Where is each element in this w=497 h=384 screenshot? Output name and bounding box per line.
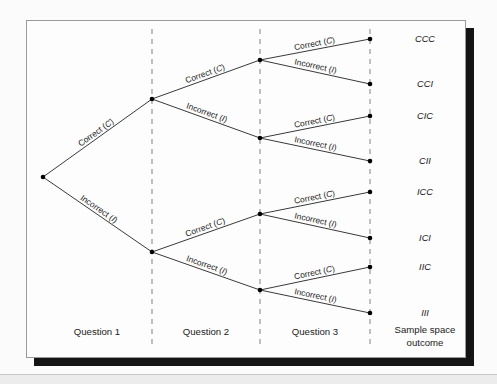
tree-edge-I-to-IC — [152, 214, 260, 252]
outcome-label-CII: CII — [419, 156, 431, 166]
edge-label-C-to-CI: Incorrect (I) — [185, 101, 229, 125]
tree-node-CI — [258, 136, 263, 141]
edge-label-I-to-II: Incorrect (I) — [185, 253, 229, 277]
tree-node-III — [368, 311, 373, 316]
edge-label-root-to-C: Correct (C) — [76, 116, 116, 148]
tree-node-ICC — [368, 190, 373, 195]
tree-node-root — [41, 175, 46, 180]
column-label-outcome-line2: outcome — [407, 337, 444, 348]
page-backdrop-lower — [0, 375, 497, 384]
figure-card: Correct (C)Incorrect (I)Correct (C)Incor… — [26, 20, 466, 358]
tree-edge-C-to-CC — [152, 60, 260, 99]
column-label-q3: Question 3 — [292, 326, 338, 337]
outcome-label-ICI: ICI — [419, 233, 431, 243]
tree-node-II — [258, 288, 263, 293]
edge-label-C-to-CC: Correct (C) — [184, 62, 227, 86]
tree-edge-C-to-CI — [152, 99, 260, 138]
tree-edge-I-to-II — [152, 252, 260, 290]
tree-node-IC — [258, 212, 263, 217]
tree-node-ICI — [368, 236, 373, 241]
outcome-label-ICC: ICC — [417, 187, 433, 197]
tree-node-CII — [368, 159, 373, 164]
outcome-label-CIC: CIC — [417, 111, 433, 121]
tree-edge-root-to-I — [43, 177, 152, 252]
column-label-outcome-line1: Sample space — [395, 324, 456, 335]
outcome-label-III: III — [421, 308, 429, 318]
outcome-label-CCI: CCI — [417, 79, 433, 89]
tree-edge-root-to-C — [43, 99, 152, 177]
column-label-q1: Question 1 — [74, 326, 120, 337]
edge-label-root-to-I: Incorrect (I) — [79, 193, 120, 226]
tree-node-C — [150, 97, 155, 102]
tree-node-CIC — [368, 114, 373, 119]
tree-node-I — [150, 250, 155, 255]
column-label-q2: Question 2 — [183, 326, 229, 337]
column-labels: Question 1Question 2Question 3Sample spa… — [74, 324, 456, 348]
outcome-label-CCC: CCC — [415, 34, 435, 44]
tree-edge-labels: Correct (C)Incorrect (I)Correct (C)Incor… — [76, 35, 338, 305]
tree-node-IIC — [368, 265, 373, 270]
probability-tree-diagram: Correct (C)Incorrect (I)Correct (C)Incor… — [27, 21, 465, 357]
tree-node-CCI — [368, 82, 373, 87]
sample-space-outcomes: CCCCCICICCIIICCICIIICIII — [415, 34, 435, 318]
outcome-label-IIC: IIC — [419, 262, 431, 272]
tree-node-CCC — [368, 37, 373, 42]
edge-label-I-to-IC: Correct (C) — [184, 215, 227, 238]
tree-node-CC — [258, 58, 263, 63]
